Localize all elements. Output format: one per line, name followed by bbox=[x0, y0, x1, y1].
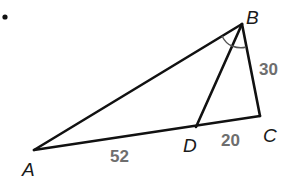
angle-arc-DBC bbox=[232, 46, 246, 48]
vertex-label-D: D bbox=[183, 135, 197, 156]
vertex-label-C: C bbox=[263, 125, 277, 146]
segment-BC bbox=[242, 24, 260, 116]
vertex-label-B: B bbox=[246, 7, 259, 28]
segment-AB bbox=[34, 24, 242, 150]
measure-DC: 20 bbox=[221, 131, 240, 150]
vertex-label-A: A bbox=[21, 159, 35, 180]
angle-arc-ABD bbox=[222, 36, 232, 46]
bullet-dot bbox=[2, 14, 7, 19]
measure-AD: 52 bbox=[110, 147, 129, 166]
measure-BC: 30 bbox=[259, 60, 278, 79]
triangle-diagram: B A D C 30 52 20 bbox=[0, 0, 288, 185]
